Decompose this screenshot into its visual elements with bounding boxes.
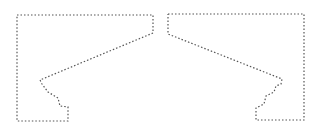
diagram-canvas bbox=[0, 0, 329, 131]
left-profile-outline bbox=[17, 15, 153, 121]
right-profile-outline bbox=[168, 14, 304, 120]
